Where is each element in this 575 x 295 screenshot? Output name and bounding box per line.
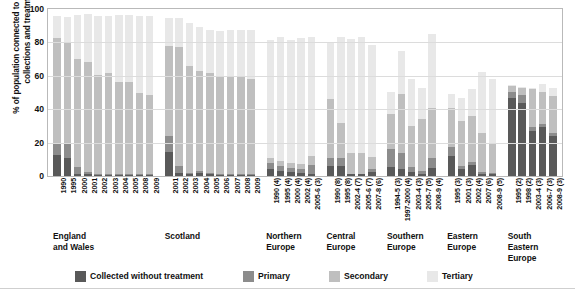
gridline-80 <box>48 42 562 43</box>
bar-segment <box>308 165 316 173</box>
y-axis-tick-60: 60 <box>14 71 44 81</box>
x-axis-tick-label: 2003-4 (3) <box>534 178 543 210</box>
bar-segment <box>408 172 416 176</box>
x-axis-tick-label: 1995 (2) <box>514 178 523 204</box>
bar <box>387 92 395 176</box>
bar <box>539 84 547 176</box>
bar <box>549 88 557 176</box>
x-axis-tick-label: 1990 (4) <box>272 178 281 204</box>
bar-segment <box>347 174 355 176</box>
plot-area <box>47 8 563 177</box>
bar-segment <box>165 46 173 136</box>
bar-segment <box>237 30 245 78</box>
bar-segment <box>247 30 255 79</box>
x-axis-tick-label: 2009 <box>152 178 161 193</box>
x-axis-tick-label: 2007-8 (6) <box>374 178 383 210</box>
bar <box>529 88 537 177</box>
bar <box>247 30 255 176</box>
bar-segment <box>216 31 224 78</box>
bar-segment <box>115 15 123 82</box>
bar-segment <box>529 131 537 176</box>
gridline-60 <box>48 76 562 77</box>
bar-segment <box>539 127 547 176</box>
legend-swatch <box>427 271 438 282</box>
bar-segment <box>337 166 345 176</box>
bar-segment <box>549 96 557 134</box>
bar <box>468 89 476 176</box>
bar <box>206 30 214 176</box>
bar-segment <box>398 94 406 153</box>
x-axis-tick-label: 1994-5 (3) <box>393 178 402 210</box>
bar-segment <box>94 175 102 176</box>
x-axis-tick-label: 2007 (6) <box>484 178 493 204</box>
x-axis-tick-label: 2008 <box>141 178 150 193</box>
bar-segment <box>247 79 255 174</box>
bar-segment <box>105 73 113 174</box>
x-axis-tick-label: 2000 <box>80 178 89 193</box>
x-axis-tick-label: 2005-6 (3) <box>313 178 322 210</box>
bar-segment <box>64 17 72 42</box>
bar-segment <box>186 23 194 66</box>
bar-segment <box>539 84 547 92</box>
bar <box>478 72 486 176</box>
bar-segment <box>539 92 547 125</box>
legend-label: Secondary <box>344 271 388 281</box>
bar-segment <box>387 149 395 167</box>
bar-segment <box>216 175 224 176</box>
group-label: South Eastern Europe <box>508 231 539 263</box>
bar-segment <box>64 143 72 157</box>
bar-segment <box>84 14 92 62</box>
x-axis-tick-label: 2008 <box>243 178 252 193</box>
bar-segment <box>165 136 173 152</box>
bar-segment <box>125 15 133 82</box>
x-axis-tick-labels: 1990199520002001200220032004200520082009… <box>47 178 563 226</box>
bar <box>196 27 204 176</box>
bar-segment <box>175 166 183 173</box>
x-axis-tick-label: 1990 <box>59 178 68 193</box>
bottom-divider <box>0 288 575 289</box>
x-axis-tick-label: 1998 (2) <box>524 178 533 204</box>
bar <box>297 38 305 176</box>
bar-segment <box>115 82 123 175</box>
bar <box>136 16 144 176</box>
bar <box>186 23 194 176</box>
bar-segment <box>146 16 154 95</box>
bar <box>448 94 456 176</box>
bar-segment <box>277 171 285 176</box>
bar-segment <box>308 174 316 177</box>
bar <box>94 16 102 176</box>
bar-segment <box>216 77 224 174</box>
bar-segment <box>64 158 72 176</box>
x-axis-tick-label: 1990 (8) <box>333 178 342 204</box>
x-axis-tick-label: 2005 <box>212 178 221 193</box>
bar <box>508 85 516 176</box>
bar-segment <box>398 153 406 169</box>
bar-segment <box>53 16 61 39</box>
x-axis-tick-label: 2006 <box>222 178 231 193</box>
bar-segment <box>418 88 426 120</box>
bar-segment <box>347 39 355 153</box>
legend-swatch <box>243 271 254 282</box>
group-label: Northern Europe <box>266 231 301 253</box>
legend-swatch <box>75 271 86 282</box>
x-axis-tick-label: 2007 <box>233 178 242 193</box>
bar <box>146 16 154 176</box>
bar-segment <box>53 38 61 142</box>
bar-segment <box>297 38 305 164</box>
bar-segment <box>358 153 366 173</box>
bar-segment <box>136 16 144 94</box>
bar-segment <box>478 133 486 171</box>
bar-segment <box>74 174 82 177</box>
bar-segment <box>468 89 476 116</box>
bar <box>216 31 224 176</box>
x-axis-tick-label: 2002 <box>100 178 109 193</box>
x-axis-tick-label: 2008-9 (4) <box>434 178 443 210</box>
bar-segment <box>448 108 456 147</box>
bar <box>237 30 245 176</box>
bar <box>398 51 406 176</box>
bar-segment <box>237 175 245 176</box>
bar <box>227 30 235 176</box>
bar-segment <box>165 152 173 176</box>
bar-segment <box>115 175 123 176</box>
bar <box>53 16 61 176</box>
